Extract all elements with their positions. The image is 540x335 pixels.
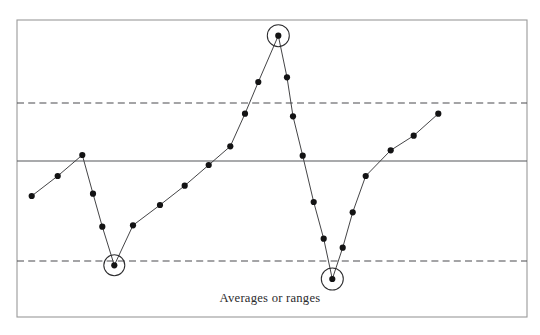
data-point bbox=[411, 133, 417, 139]
data-point bbox=[255, 79, 261, 85]
data-point bbox=[130, 222, 136, 228]
chart-canvas: Averages or ranges bbox=[0, 0, 540, 335]
data-point bbox=[311, 199, 317, 205]
data-point bbox=[29, 193, 35, 199]
control-chart-figure: Averages or ranges bbox=[0, 0, 540, 335]
chart-frame-border bbox=[17, 20, 527, 317]
data-point bbox=[290, 113, 296, 119]
data-point bbox=[329, 276, 335, 282]
data-point bbox=[435, 111, 441, 117]
data-point bbox=[388, 147, 394, 153]
data-point bbox=[55, 173, 61, 179]
x-axis-caption: Averages or ranges bbox=[220, 291, 321, 305]
data-point bbox=[99, 224, 105, 230]
data-point bbox=[79, 152, 85, 158]
data-point bbox=[182, 183, 188, 189]
data-point bbox=[284, 74, 290, 80]
data-point bbox=[300, 153, 306, 159]
data-point bbox=[363, 173, 369, 179]
data-point bbox=[340, 245, 346, 251]
data-point bbox=[90, 191, 96, 197]
data-point bbox=[242, 111, 248, 117]
data-point bbox=[350, 209, 356, 215]
data-point bbox=[206, 162, 212, 168]
data-point bbox=[157, 202, 163, 208]
data-point bbox=[275, 33, 281, 39]
data-point bbox=[227, 143, 233, 149]
data-point bbox=[111, 262, 117, 268]
data-point bbox=[321, 236, 327, 242]
